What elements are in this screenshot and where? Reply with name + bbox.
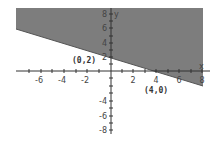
svg-text:-2: -2	[81, 76, 89, 85]
shaded-region	[16, 8, 203, 86]
svg-text:2: 2	[130, 76, 135, 85]
svg-text:8: 8	[102, 10, 107, 19]
x-tick-labels: -6 -4 -2 2 4 6 8	[35, 76, 205, 85]
svg-text:-6: -6	[99, 112, 107, 121]
svg-text:4: 4	[102, 39, 107, 48]
x-axis-label: x	[199, 62, 204, 71]
svg-text:6: 6	[176, 76, 181, 85]
inequality-graph: -6 -4 -2 2 4 6 8 8 6 4 2 -4 -6 -8 y x (0…	[0, 0, 215, 146]
svg-text:2: 2	[102, 53, 107, 62]
point-label-4-0: (4,0)	[144, 86, 168, 95]
svg-text:4: 4	[153, 76, 158, 85]
svg-text:8: 8	[199, 76, 204, 85]
svg-text:-4: -4	[99, 97, 107, 106]
y-axis-label: y	[114, 10, 119, 19]
svg-text:-4: -4	[58, 76, 66, 85]
svg-text:6: 6	[102, 24, 107, 33]
point-label-0-2: (0,2)	[72, 56, 96, 65]
svg-text:-8: -8	[99, 126, 107, 135]
svg-text:-6: -6	[35, 76, 43, 85]
